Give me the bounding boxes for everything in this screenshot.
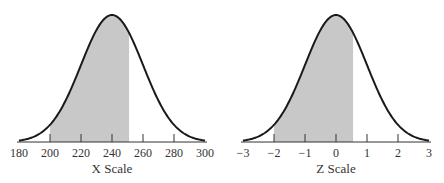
z-scale-tick-labels: −3−2−10123: [237, 146, 432, 160]
tick-label: 220: [72, 146, 90, 160]
tick-label: −1: [299, 146, 312, 160]
x-scale-chart: 180200220240260280300 X Scale: [10, 15, 214, 176]
tick-label: 240: [103, 146, 121, 160]
z-scale-chart: −3−2−10123 Z Scale: [237, 15, 432, 176]
x-scale-shaded-area: [50, 15, 129, 142]
tick-label: 3: [426, 146, 432, 160]
z-scale-shaded-area: [274, 15, 353, 142]
tick-label: 0: [333, 146, 339, 160]
tick-label: −2: [268, 146, 281, 160]
tick-label: 260: [134, 146, 152, 160]
tick-label: 1: [364, 146, 370, 160]
z-scale-axis-title: Z Scale: [316, 161, 356, 176]
tick-label: −3: [237, 146, 250, 160]
x-scale-axis-title: X Scale: [92, 161, 133, 176]
x-scale-tick-labels: 180200220240260280300: [10, 146, 214, 160]
tick-label: 300: [196, 146, 214, 160]
normal-distribution-figure: 180200220240260280300 X Scale −3−2−10123…: [0, 0, 444, 183]
tick-label: 280: [165, 146, 183, 160]
tick-label: 2: [395, 146, 401, 160]
tick-label: 180: [10, 146, 28, 160]
tick-label: 200: [41, 146, 59, 160]
